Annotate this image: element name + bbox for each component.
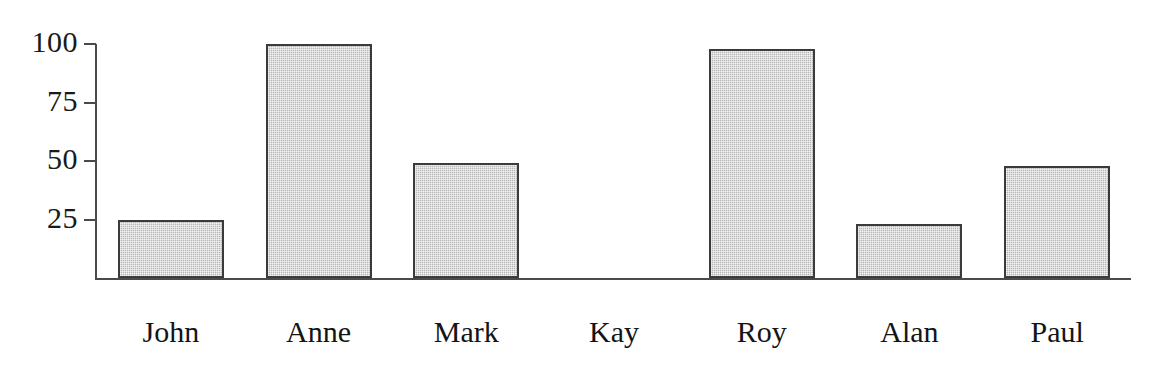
x-axis-label-paul: Paul [983, 315, 1131, 349]
bar-roy[interactable] [709, 49, 815, 278]
x-axis-label-john: John [97, 315, 245, 349]
y-axis-tick-label-text: 25 [22, 203, 78, 233]
x-axis-label-anne: Anne [245, 315, 393, 349]
bar-anne[interactable] [266, 44, 372, 278]
y-axis-line [95, 44, 97, 280]
y-axis-tick [84, 43, 96, 45]
y-axis-tick-label: 100 [16, 27, 78, 57]
bar-paul[interactable] [1004, 166, 1110, 278]
plot-area: 100755025 JohnAnneMarkKayRoyAlanPaul [0, 0, 1153, 373]
x-axis-label-roy: Roy [688, 315, 836, 349]
y-axis-tick-label: 50 [16, 144, 78, 174]
bar-john[interactable] [118, 220, 224, 279]
bar-mark[interactable] [413, 163, 519, 278]
bar-alan[interactable] [856, 224, 962, 278]
bar-chart: 100755025 JohnAnneMarkKayRoyAlanPaul [0, 0, 1153, 373]
y-axis-tick [84, 102, 96, 104]
x-axis-label-kay: Kay [540, 315, 688, 349]
x-axis-line [95, 278, 1131, 280]
y-axis-tick [84, 219, 96, 221]
y-axis-tick-label: 25 [16, 203, 78, 233]
x-axis-label-alan: Alan [836, 315, 984, 349]
y-axis-tick-label-text: 50 [22, 144, 78, 174]
y-axis-tick [84, 160, 96, 162]
y-axis-tick-label-text: 100 [22, 27, 78, 57]
x-axis-label-mark: Mark [392, 315, 540, 349]
y-axis-tick-label: 75 [16, 86, 78, 116]
y-axis-tick-label-text: 75 [22, 86, 78, 116]
